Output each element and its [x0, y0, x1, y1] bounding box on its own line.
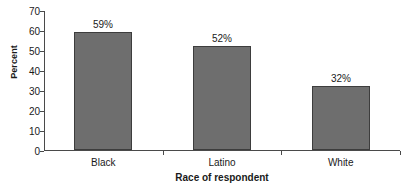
y-tick-mark: [40, 91, 44, 92]
y-axis-line: [44, 11, 45, 151]
y-tick-label: 0: [34, 146, 40, 157]
y-tick-label: 20: [29, 106, 40, 117]
y-tick-mark: [40, 71, 44, 72]
x-tick-mark: [400, 151, 401, 155]
y-axis-title: Percent: [9, 22, 19, 102]
y-tick-mark: [40, 111, 44, 112]
bar-value-label: 52%: [212, 33, 232, 44]
bar-chart: Percent 010203040506070 59%52%32% BlackL…: [0, 0, 408, 189]
x-tick-mark: [163, 151, 164, 155]
y-tick-label: 30: [29, 86, 40, 97]
y-tick-mark: [40, 131, 44, 132]
y-tick-label: 40: [29, 66, 40, 77]
plot-area: 010203040506070 59%52%32%: [44, 11, 400, 151]
x-axis-line: [44, 150, 400, 151]
y-tick-label: 50: [29, 46, 40, 57]
bar-white: 32%: [312, 86, 370, 150]
x-axis-title: Race of respondent: [44, 172, 400, 183]
bar-latino: 52%: [193, 46, 251, 150]
x-category-label-white: White: [301, 157, 381, 168]
x-category-label-black: Black: [63, 157, 143, 168]
y-tick-mark: [40, 151, 44, 152]
y-tick-label: 70: [29, 6, 40, 17]
y-tick-mark: [40, 11, 44, 12]
y-tick-mark: [40, 51, 44, 52]
y-tick-mark: [40, 31, 44, 32]
bar-black: 59%: [74, 32, 132, 150]
y-tick-label: 10: [29, 126, 40, 137]
y-tick-label: 60: [29, 26, 40, 37]
x-category-label-latino: Latino: [182, 157, 262, 168]
x-tick-mark: [281, 151, 282, 155]
bar-value-label: 59%: [93, 19, 113, 30]
bar-value-label: 32%: [331, 73, 351, 84]
